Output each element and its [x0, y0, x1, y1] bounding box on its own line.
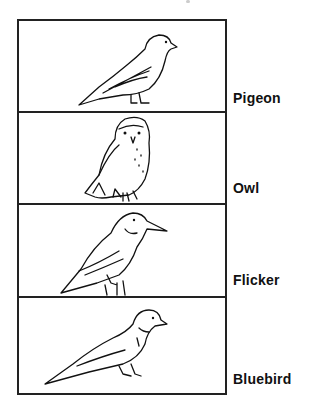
label-pigeon: Pigeon: [233, 90, 281, 106]
pigeon-drawing-icon: [19, 21, 225, 111]
panel-pigeon: [17, 19, 227, 113]
panel-flicker: [17, 203, 227, 298]
label-bluebird: Bluebird: [233, 371, 291, 387]
panel-owl: [17, 111, 227, 205]
bluebird-drawing-icon: [19, 298, 225, 393]
owl-drawing-icon: [19, 113, 225, 203]
label-flicker: Flicker: [233, 272, 280, 288]
panel-bluebird: [17, 296, 227, 395]
flicker-drawing-icon: [19, 205, 225, 296]
scan-artifact: [186, 0, 190, 3]
label-owl: Owl: [233, 180, 259, 196]
